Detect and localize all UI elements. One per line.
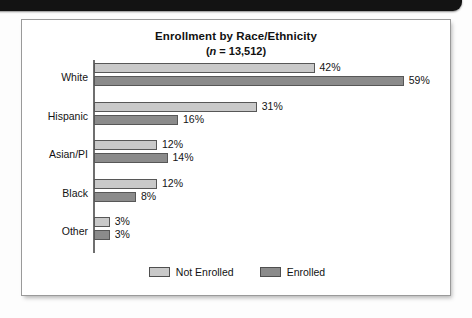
bar-enrolled — [94, 76, 404, 86]
bar-value-label: 12% — [162, 138, 183, 151]
bar-enrolled — [94, 192, 136, 202]
category-label: Other — [0, 225, 88, 237]
bar-row: 3% — [94, 217, 434, 227]
bar-row: 12% — [94, 140, 434, 150]
bar-not-enrolled — [94, 217, 110, 227]
bar-row: 12% — [94, 179, 434, 189]
category-label: White — [0, 71, 88, 83]
bar-value-label: 8% — [141, 190, 156, 203]
legend-item-not-enrolled: Not Enrolled — [149, 266, 234, 278]
bar-row: 59% — [94, 76, 434, 86]
bar-not-enrolled — [94, 179, 157, 189]
category-label: Hispanic — [0, 110, 88, 122]
bar-value-label: 12% — [162, 177, 183, 190]
bar-value-label: 16% — [183, 113, 204, 126]
legend-item-enrolled: Enrolled — [260, 266, 326, 278]
page-header-black-band — [0, 0, 462, 11]
legend-label: Not Enrolled — [176, 266, 234, 278]
legend-swatch-icon — [149, 267, 170, 277]
bar-row: 14% — [94, 153, 434, 163]
bar-value-label: 59% — [409, 74, 430, 87]
bar-value-label: 14% — [173, 151, 194, 164]
legend-swatch-icon — [260, 267, 281, 277]
bar-enrolled — [94, 153, 168, 163]
bar-enrolled — [94, 230, 110, 240]
bar-value-label: 31% — [262, 100, 283, 113]
category-label: Black — [0, 187, 88, 199]
category-label: Asian/PI — [0, 148, 88, 160]
bar-row: 31% — [94, 102, 434, 112]
scanned-page-background: Enrollment by Race/Ethnicity (n = 13,512… — [0, 0, 472, 318]
plot-area: White42%59%Hispanic31%16%Asian/PI12%14%B… — [22, 20, 452, 297]
bar-row: 42% — [94, 63, 434, 73]
legend-label: Enrolled — [287, 266, 326, 278]
bar-not-enrolled — [94, 63, 315, 73]
figure-container: Enrollment by Race/Ethnicity (n = 13,512… — [21, 19, 451, 296]
bar-not-enrolled — [94, 102, 257, 112]
bar-row: 3% — [94, 230, 434, 240]
bar-value-label: 42% — [320, 61, 341, 74]
chart-legend: Not EnrolledEnrolled — [22, 266, 452, 278]
bar-not-enrolled — [94, 140, 157, 150]
bar-value-label: 3% — [115, 215, 130, 228]
bar-row: 16% — [94, 115, 434, 125]
bar-value-label: 3% — [115, 228, 130, 241]
bar-row: 8% — [94, 192, 434, 202]
bar-enrolled — [94, 115, 178, 125]
